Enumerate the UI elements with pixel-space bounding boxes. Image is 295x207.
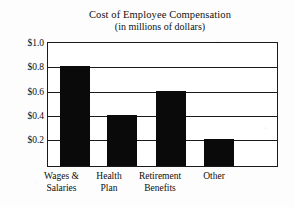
y-axis-tick-label-2: $0.8 — [10, 62, 44, 72]
chart-subtitle: (in millions of dollars) — [40, 21, 280, 33]
y-axis-tick-label-1: $1.0 — [10, 38, 44, 48]
bar-chart-figure: Cost of Employee Compensation (in millio… — [0, 0, 295, 207]
bar-wages-salaries — [60, 66, 90, 166]
bar-health-plan — [107, 115, 137, 166]
x-axis-label-retirement-benefits: Retirement Benefits — [127, 171, 193, 194]
y-axis-tick-label-4: $0.4 — [10, 111, 44, 121]
x-axis-label-other: Other — [186, 171, 242, 183]
chart-title-block: Cost of Employee Compensation (in millio… — [40, 9, 280, 33]
y-axis-tick-label-3: $0.6 — [10, 87, 44, 97]
plot-area — [47, 42, 278, 167]
bar-retirement-benefits — [156, 91, 186, 166]
y-axis-tick-label-5: $0.2 — [10, 135, 44, 145]
bar-other — [204, 139, 234, 166]
chart-title: Cost of Employee Compensation — [40, 9, 280, 21]
